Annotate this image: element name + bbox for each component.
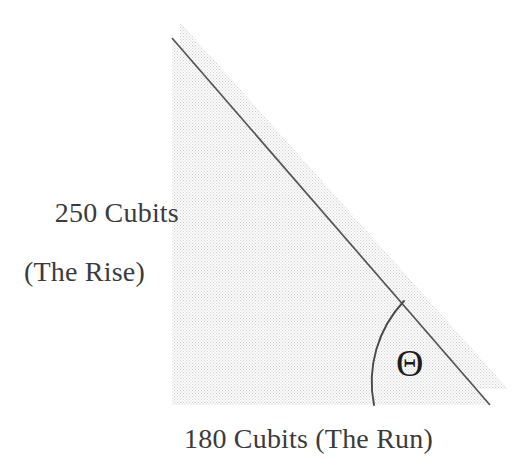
angle-theta-label: Θ bbox=[396, 344, 423, 382]
rise-label-line-2: (The Rise) bbox=[24, 257, 179, 287]
run-label: 180 Cubits (The Run) bbox=[184, 424, 433, 454]
rise-label-line-1: 250 Cubits bbox=[55, 197, 179, 228]
rise-label: 250 Cubits (The Rise) bbox=[26, 168, 179, 346]
diagram-canvas: 250 Cubits (The Rise) 180 Cubits (The Ru… bbox=[0, 0, 531, 466]
